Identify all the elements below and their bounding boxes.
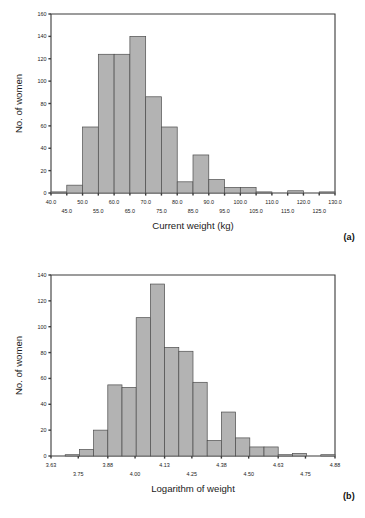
chart-logarithm-of-weight: 0204060801001201403.633.753.884.004.134.…: [0, 260, 365, 496]
x-tick-label: 45.0: [62, 208, 73, 214]
x-tick-label: 3.63: [46, 462, 57, 468]
bars-group: [51, 36, 335, 193]
y-axis-title: No. of women: [13, 74, 24, 133]
histogram-bar: [240, 187, 256, 193]
histogram-bar: [177, 182, 193, 193]
y-tick-label: 80: [41, 101, 47, 107]
histogram-bar: [83, 127, 99, 193]
y-tick-label: 160: [38, 11, 47, 17]
histogram-bar: [193, 155, 209, 193]
x-tick-label: 70.0: [140, 199, 151, 205]
x-tick-label: 85.0: [188, 208, 199, 214]
x-tick-label: 4.88: [330, 462, 341, 468]
histogram-bar: [321, 455, 335, 456]
histogram-bar: [122, 387, 136, 456]
y-tick-label: 100: [38, 324, 47, 330]
y-tick-label: 0: [44, 190, 47, 196]
histogram-bar: [165, 347, 179, 456]
histogram-bar: [51, 192, 67, 193]
histogram-bar: [130, 36, 146, 193]
histogram-bar: [264, 447, 278, 456]
histogram-bar: [94, 430, 108, 456]
histogram-bar: [256, 192, 272, 193]
histogram-bar: [250, 447, 264, 456]
x-tick-label: 105.0: [249, 208, 263, 214]
x-tick-label: 4.38: [216, 462, 227, 468]
y-tick-label: 120: [38, 298, 47, 304]
panel-label-b: (b): [343, 491, 355, 501]
y-tick-label: 140: [38, 272, 47, 278]
y-tick-label: 120: [38, 56, 47, 62]
panel-label-a: (a): [343, 232, 355, 242]
x-tick-label: 4.63: [273, 462, 284, 468]
histogram-bar: [161, 127, 177, 193]
x-tick-label: 75.0: [156, 208, 167, 214]
histogram-bar: [98, 54, 114, 193]
y-tick-label: 40: [41, 145, 47, 151]
histogram-bar: [65, 455, 79, 456]
x-tick-label: 125.0: [312, 208, 326, 214]
x-tick-label: 4.50: [243, 471, 254, 477]
histogram-bar: [146, 97, 162, 193]
x-tick-label: 65.0: [125, 208, 136, 214]
x-tick-label: 50.0: [77, 199, 88, 205]
y-tick-label: 20: [41, 168, 47, 174]
x-tick-label: 100.0: [234, 199, 248, 205]
histogram-bar: [108, 385, 122, 456]
x-tick-label: 80.0: [172, 199, 183, 205]
x-tick-label: 95.0: [219, 208, 230, 214]
chart-current-weight: 02040608010012014016040.045.050.055.060.…: [0, 0, 365, 232]
x-tick-label: 130.0: [328, 199, 342, 205]
y-axis-title: No. of women: [13, 336, 24, 395]
y-tick-label: 20: [41, 427, 47, 433]
y-tick-label: 100: [38, 78, 47, 84]
histogram-bar: [179, 351, 193, 456]
histogram-bar: [136, 318, 150, 456]
x-tick-label: 55.0: [93, 208, 104, 214]
y-tick-label: 140: [38, 33, 47, 39]
x-tick-label: 4.75: [300, 471, 311, 477]
histogram-bar: [114, 54, 130, 193]
histogram-bar: [221, 412, 235, 456]
histogram-panel-a: 02040608010012014016040.045.050.055.060.…: [0, 0, 365, 260]
x-tick-label: 90.0: [204, 199, 215, 205]
histogram-bar: [225, 187, 241, 193]
y-tick-label: 40: [41, 401, 47, 407]
histogram-bar: [236, 438, 250, 456]
histogram-bar: [150, 284, 164, 456]
x-axis-title: Logarithm of weight: [151, 483, 235, 494]
histogram-bar: [207, 440, 221, 456]
histogram-bar: [193, 382, 207, 456]
x-tick-label: 4.25: [187, 471, 198, 477]
x-tick-label: 60.0: [109, 199, 120, 205]
y-tick-label: 60: [41, 375, 47, 381]
y-tick-label: 80: [41, 350, 47, 356]
y-tick-label: 60: [41, 123, 47, 129]
x-tick-label: 120.0: [297, 199, 311, 205]
x-tick-label: 4.00: [130, 471, 141, 477]
x-tick-label: 110.0: [265, 199, 278, 205]
x-tick-label: 4.13: [159, 462, 170, 468]
histogram-bar: [209, 180, 225, 193]
histogram-bar: [67, 185, 83, 193]
y-tick-label: 0: [44, 453, 47, 459]
histogram-panel-b: 0204060801001201403.633.753.884.004.134.…: [0, 260, 365, 518]
x-axis-title: Current weight (kg): [152, 220, 234, 231]
x-tick-label: 40.0: [46, 199, 57, 205]
histogram-bar: [319, 192, 335, 193]
histogram-bar: [288, 191, 304, 193]
x-tick-label: 115.0: [281, 208, 294, 214]
bars-group: [65, 284, 335, 456]
x-tick-label: 3.75: [73, 471, 84, 477]
histogram-bar: [292, 453, 306, 456]
histogram-bar: [79, 450, 93, 456]
histogram-bar: [278, 455, 292, 456]
x-tick-label: 3.88: [103, 462, 114, 468]
